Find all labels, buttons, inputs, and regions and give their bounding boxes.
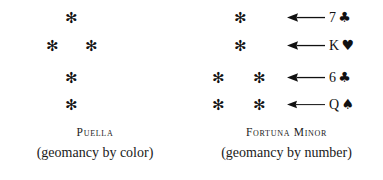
geomancy-dot: ✻ — [45, 36, 59, 56]
left-arrow-icon — [287, 40, 325, 51]
caption-fortuna-minor: Fortuna Minor (geomancy by number) — [190, 125, 383, 162]
clubs-icon: ♣ — [338, 9, 351, 25]
figure-subtitle: (geomancy by color) — [0, 143, 190, 162]
figure-subtitle: (geomancy by number) — [190, 143, 383, 162]
card-mapping-row: 6♣ — [285, 68, 383, 90]
card-mapping-row: K♥ — [285, 36, 383, 58]
figure-puella: ✻ ✻ ✻ ✻ ✻ Puella (geomancy by color) — [0, 0, 190, 180]
clubs-icon: ♣ — [338, 69, 351, 85]
card-mapping-row: 7♣ — [285, 8, 383, 30]
geomancy-dot: ✻ — [84, 36, 98, 56]
card-label: Q♠ — [329, 94, 383, 115]
dot-grid-puella: ✻ ✻ ✻ ✻ ✻ — [0, 6, 190, 118]
geomancy-figure-plate: ✻ ✻ ✻ ✻ ✻ Puella (geomancy by color) ✻ — [0, 0, 383, 180]
card-mapping-arrows: 7♣ K♥ — [190, 6, 383, 118]
dot-row: ✻ ✻ — [0, 36, 190, 63]
geomancy-dot: ✻ — [64, 95, 78, 115]
left-arrow-icon — [287, 99, 325, 110]
geomancy-dot: ✻ — [64, 68, 78, 88]
card-label: K♥ — [329, 35, 383, 56]
left-arrow-icon — [287, 12, 325, 23]
geomancy-dot: ✻ — [64, 8, 78, 28]
figure-name: Puella — [0, 125, 190, 140]
caption-puella: Puella (geomancy by color) — [0, 125, 190, 162]
card-rank: K — [329, 38, 339, 53]
dot-row: ✻ — [0, 95, 190, 122]
card-rank: Q — [329, 97, 339, 112]
figure-name: Fortuna Minor — [190, 125, 383, 140]
card-rank: 6 — [329, 70, 336, 85]
card-mapping-row: Q♠ — [285, 95, 383, 117]
card-label: 6♣ — [329, 67, 383, 88]
spades-icon: ♠ — [341, 96, 354, 112]
card-rank: 7 — [329, 10, 336, 25]
dot-row: ✻ — [0, 8, 190, 35]
left-arrow-icon — [287, 72, 325, 83]
hearts-icon: ♥ — [341, 37, 354, 53]
dot-row: ✻ — [0, 68, 190, 95]
figure-fortuna-minor: ✻ ✻ ✻ ✻ ✻ ✻ — [190, 0, 383, 180]
card-label: 7♣ — [329, 7, 383, 28]
